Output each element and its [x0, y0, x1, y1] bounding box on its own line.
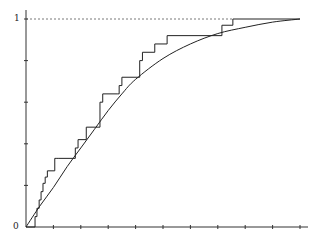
smooth-cdf-curve [26, 19, 300, 227]
cdf-chart [0, 0, 322, 240]
x-axis [26, 225, 308, 229]
y-tick-label-1: 1 [14, 14, 20, 23]
empirical-cdf-steps [26, 19, 300, 227]
y-tick-label-0: 0 [13, 222, 19, 231]
y-axis [24, 10, 28, 227]
